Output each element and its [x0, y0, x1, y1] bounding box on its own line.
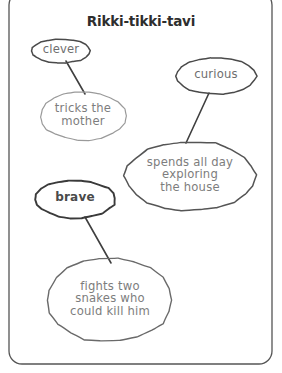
- node-labels-layer: clevercuriousbravetricks the motherspend…: [0, 0, 282, 373]
- node-label-trait-brave: brave: [27, 191, 123, 204]
- node-label-trait-curious: curious: [168, 68, 264, 81]
- node-label-evidence-explores: spends all day exploring the house: [117, 156, 263, 195]
- node-label-trait-clever: clever: [24, 43, 98, 56]
- node-label-evidence-tricks: tricks the mother: [32, 102, 134, 128]
- worksheet-canvas: Rikki-tikki-tavi clevercuriousbravetrick…: [0, 0, 282, 373]
- node-label-evidence-snakes: fights two snakes who could kill him: [40, 280, 180, 319]
